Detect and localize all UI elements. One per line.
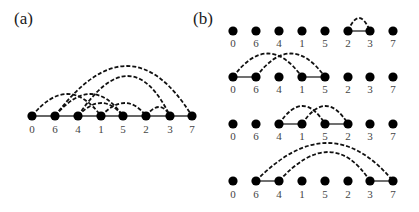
node-label: 4 xyxy=(276,83,282,95)
arc-0-1 xyxy=(233,54,302,78)
panel-a: (a) 0 6 4 1 5 2 3 7 xyxy=(14,9,197,135)
node-1 xyxy=(297,119,306,128)
node-label: 6 xyxy=(253,37,259,49)
node-0 xyxy=(228,119,237,128)
node-label: 7 xyxy=(390,188,396,200)
node-label: 5 xyxy=(322,130,328,142)
node-3 xyxy=(365,119,374,128)
node-3 xyxy=(365,176,374,185)
node-5 xyxy=(118,111,127,120)
panel-a-node-labels: 0 6 4 1 5 2 3 7 xyxy=(29,123,195,135)
figure: (a) 0 6 4 1 5 2 3 7 xyxy=(0,0,419,212)
node-label: 6 xyxy=(253,130,259,142)
panel-b-row-4: 0 6 4 1 5 2 3 7 xyxy=(228,143,397,200)
node-3 xyxy=(165,111,174,120)
arc-6-7 xyxy=(256,143,393,181)
node-3 xyxy=(365,26,374,35)
arc-4-3 xyxy=(78,76,170,116)
node-label: 0 xyxy=(29,123,35,135)
node-6 xyxy=(251,72,260,81)
node-0 xyxy=(27,111,36,120)
node-6 xyxy=(251,26,260,35)
node-6 xyxy=(251,119,260,128)
node-label: 7 xyxy=(189,123,195,135)
node-2 xyxy=(141,111,150,120)
node-1 xyxy=(297,72,306,81)
node-0 xyxy=(228,26,237,35)
node-5 xyxy=(320,176,329,185)
node-label: 2 xyxy=(345,83,351,95)
node-label: 7 xyxy=(390,130,396,142)
node-5 xyxy=(320,26,329,35)
node-label: 4 xyxy=(276,188,282,200)
node-label: 4 xyxy=(75,123,81,135)
node-3 xyxy=(365,72,374,81)
node-1 xyxy=(297,176,306,185)
panel-b-row-1: 0 6 4 1 5 2 3 7 xyxy=(228,18,397,49)
node-label: 7 xyxy=(390,37,396,49)
node-label: 6 xyxy=(253,188,259,200)
node-label: 2 xyxy=(345,130,351,142)
node-label: 1 xyxy=(98,123,104,135)
node-label: 5 xyxy=(120,123,126,135)
panel-b-row-3: 0 6 4 1 5 2 3 7 xyxy=(228,106,397,142)
node-label: 4 xyxy=(276,37,282,49)
panel-b-row-2: 0 6 4 1 5 2 3 7 xyxy=(228,54,397,96)
node-6 xyxy=(50,111,59,120)
node-label: 2 xyxy=(345,188,351,200)
node-2 xyxy=(343,72,352,81)
node-label: 7 xyxy=(390,83,396,95)
node-label: 1 xyxy=(299,188,305,200)
node-label: 2 xyxy=(143,123,149,135)
node-label: 3 xyxy=(167,123,173,135)
node-label: 3 xyxy=(367,37,373,49)
node-0 xyxy=(228,72,237,81)
node-6 xyxy=(251,176,260,185)
node-5 xyxy=(320,119,329,128)
node-label: 5 xyxy=(322,37,328,49)
node-7 xyxy=(388,26,397,35)
node-label: 0 xyxy=(230,130,236,142)
node-label: 6 xyxy=(253,83,259,95)
node-7 xyxy=(388,72,397,81)
node-label: 0 xyxy=(230,188,236,200)
node-label: 5 xyxy=(322,83,328,95)
node-label: 3 xyxy=(367,83,373,95)
arc-6-5 xyxy=(55,94,123,116)
node-4 xyxy=(274,72,283,81)
node-4 xyxy=(274,26,283,35)
node-label: 1 xyxy=(299,130,305,142)
node-label: 3 xyxy=(367,130,373,142)
node-4 xyxy=(274,176,283,185)
node-label: 0 xyxy=(230,83,236,95)
node-label: 1 xyxy=(299,37,305,49)
node-label: 2 xyxy=(345,37,351,49)
node-4 xyxy=(274,119,283,128)
node-0 xyxy=(228,176,237,185)
node-label: 6 xyxy=(52,123,58,135)
node-7 xyxy=(187,111,196,120)
node-label: 4 xyxy=(276,130,282,142)
panel-b-label: (b) xyxy=(193,9,213,28)
node-label: 1 xyxy=(299,83,305,95)
node-7 xyxy=(388,119,397,128)
arc-6-7 xyxy=(55,66,192,116)
node-label: 0 xyxy=(230,37,236,49)
node-1 xyxy=(297,26,306,35)
node-4 xyxy=(73,111,82,120)
arc-6-5 xyxy=(256,54,325,78)
panel-b: (b) 0 6 4 1 5 2 3 7 xyxy=(193,9,398,200)
node-2 xyxy=(343,26,352,35)
node-2 xyxy=(343,119,352,128)
node-1 xyxy=(96,111,105,120)
node-label: 3 xyxy=(367,188,373,200)
node-label: 5 xyxy=(322,188,328,200)
node-5 xyxy=(320,72,329,81)
node-7 xyxy=(388,176,397,185)
panel-a-label: (a) xyxy=(14,9,33,28)
node-2 xyxy=(343,176,352,185)
